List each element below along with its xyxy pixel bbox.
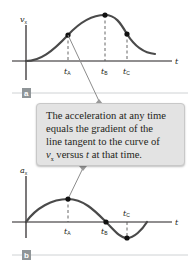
t-axis-label-a: t [175,57,179,66]
marker-tB-b: tB [101,227,108,236]
callout-line-1: The acceleration at any time [46,109,178,122]
point-C-velocity [124,31,129,36]
point-B-velocity [102,12,107,17]
point-A-acceleration [65,196,70,201]
marker-tC-b: tC [123,209,130,218]
callout-pointer-bottom [68,168,83,199]
velocity-curve [26,15,155,61]
callout-box: The acceleration at any time equals the … [36,103,185,166]
marker-tB-a: tB [101,67,108,76]
point-B-acceleration [103,219,108,224]
acceleration-curve [26,199,147,238]
callout-arrow-bottom [79,166,87,171]
point-C-acceleration [124,235,129,240]
marker-tA-b: tA [64,227,71,236]
ax-axis-label: ax [20,166,28,176]
t-axis-label-b: t [175,218,179,227]
marker-tC-a: tC [123,67,130,76]
marker-tA-a: tA [64,67,71,76]
callout-line-4: vx versus t at that time. [46,148,178,166]
panel-b-acceleration-graph: ax t tA tB tC [12,166,179,241]
callout-line-2: equals the gradient of the [46,122,178,135]
panel-badge-a-label: a [24,89,29,98]
callout-line-3: line tangent to the curve of [46,135,178,148]
panel-badge-b-label: b [24,251,29,260]
vx-axis-label: vx [20,15,28,25]
callout-pointer-top [68,35,99,101]
panel-a-velocity-graph: vx t tA tB tC [12,12,179,80]
